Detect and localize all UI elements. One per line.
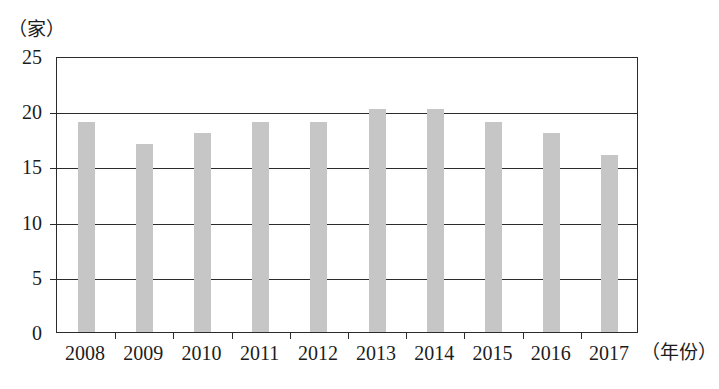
y-ticklabel: 10: [22, 213, 42, 233]
x-tickmark: [348, 332, 349, 339]
x-tickmark: [115, 332, 116, 339]
x-axis-unit-label: （年份）: [641, 341, 717, 365]
bar: [427, 109, 444, 332]
bar: [310, 122, 327, 332]
x-axis: 2008200920102011201220132014201520162017: [0, 341, 719, 377]
x-ticklabel: 2009: [114, 341, 172, 365]
y-ticklabel: 5: [32, 268, 42, 288]
bars-group: [57, 58, 637, 332]
bar: [485, 122, 502, 332]
bar-chart-figure: （家） 0510152025 2008200920102011201220132…: [0, 0, 719, 389]
x-tickmark: [290, 332, 291, 339]
bar: [78, 122, 95, 332]
x-ticklabel: 2014: [405, 341, 463, 365]
x-ticklabel: 2015: [463, 341, 521, 365]
x-tickmark: [523, 332, 524, 339]
plot-area: [56, 57, 638, 333]
y-ticklabel: 15: [22, 157, 42, 177]
y-tickmark: [50, 168, 57, 169]
y-tickmark: [50, 113, 57, 114]
bar: [369, 109, 386, 332]
y-ticklabel: 20: [22, 102, 42, 122]
x-tickmark: [406, 332, 407, 339]
y-ticklabel: 0: [32, 323, 42, 343]
bar: [136, 144, 153, 332]
x-tickmark: [464, 332, 465, 339]
bar: [252, 122, 269, 332]
x-tickmark: [581, 332, 582, 339]
x-ticklabel: 2012: [289, 341, 347, 365]
x-ticklabel: 2013: [347, 341, 405, 365]
y-tickmark: [50, 279, 57, 280]
x-tickmark: [173, 332, 174, 339]
y-ticklabel: 25: [22, 47, 42, 67]
x-tickmark: [232, 332, 233, 339]
y-axis: 0510152025: [0, 0, 56, 389]
y-tickmark: [50, 224, 57, 225]
x-ticklabel: 2008: [56, 341, 114, 365]
bar: [194, 133, 211, 332]
x-ticklabel: 2010: [172, 341, 230, 365]
bar: [601, 155, 618, 332]
x-ticklabel: 2016: [522, 341, 580, 365]
bar: [543, 133, 560, 332]
x-ticklabel: 2017: [580, 341, 638, 365]
x-ticklabel: 2011: [231, 341, 289, 365]
